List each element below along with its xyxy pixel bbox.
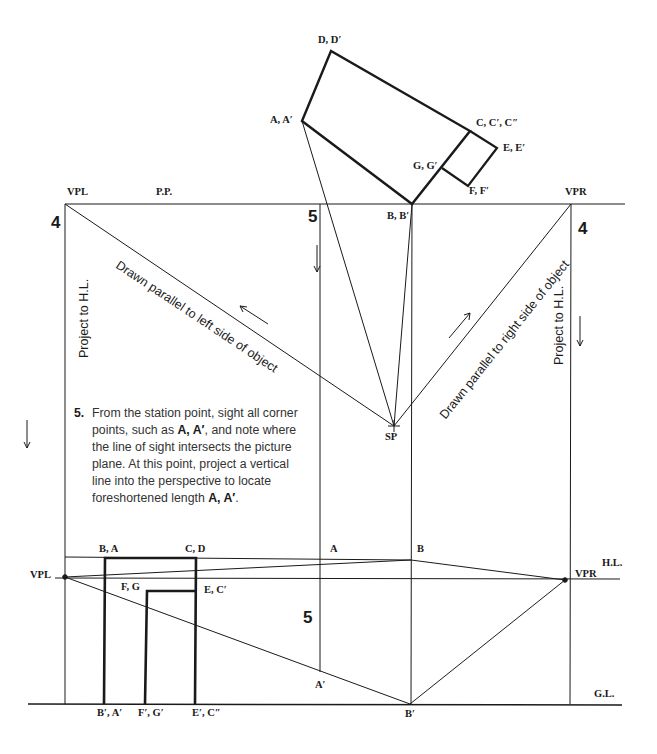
sight-line-b [394,204,412,426]
label-fg: F, G [121,581,140,592]
label-pp: P.P. [156,186,172,197]
vpr-point [563,578,568,583]
arrow-upleft-icon [240,306,268,324]
arrow-mid-down-icon [314,245,320,272]
label-vpr-top: VPR [565,186,587,197]
arrow-left-down-icon [24,420,30,448]
label-f: F, F′ [469,185,489,196]
projector-b [411,204,412,704]
label-ba-prime: B′, A′ [97,707,122,718]
label-hl: H.L. [602,557,622,568]
projector-vpr [570,204,571,704]
step-5-bottom: 5 [303,608,312,628]
horizon-line [55,578,620,579]
right-project-text: Project to H.L. [552,286,566,365]
label-ba: B, A [99,543,118,554]
step-4-right: 4 [578,219,587,239]
label-sp: SP [385,431,397,442]
label-b-top: B [417,543,424,554]
label-vpr-bottom: VPR [575,568,597,579]
label-cd: C, D [185,543,205,554]
label-e: E, E′ [503,142,525,153]
ground-line [28,704,622,705]
right-parallel-line [394,204,571,426]
b-to-vpr-line [411,560,565,580]
perspective-drawing [0,0,657,754]
label-a-top: A [330,543,338,554]
label-fg-prime: F′, G′ [138,707,164,718]
bprime-to-vpr-line [410,580,565,704]
outer-shape [104,558,196,704]
note-number: 5. [74,405,84,422]
vpl-to-b-line [65,560,411,577]
step-5-top: 5 [308,207,317,227]
step-5-note: 5. From the station point, sight all cor… [92,405,302,507]
sight-line-a [302,121,394,426]
left-project-text: Project to H.L. [77,279,91,358]
arrow-right-down-icon [577,316,583,346]
label-vpl-top: VPL [67,186,88,197]
plan-object-notch [442,131,497,186]
label-b-prime: B′ [405,708,415,719]
vpl-point [63,575,68,580]
vpl-to-bprime-line [65,577,410,704]
plan-object-main [302,51,470,204]
step-4-left: 4 [51,213,60,233]
inner-shape [145,591,196,704]
label-g: G, G′ [413,160,438,171]
label-a-prime: A′ [315,679,326,690]
label-d: D, D′ [318,34,341,45]
label-a: A, A′ [270,114,293,125]
left-parallel-line [65,204,394,426]
label-vpl-bottom: VPL [30,569,51,580]
label-ec-prime: E′, C″ [192,707,221,718]
label-c: C, C′, C″ [476,117,518,128]
label-gl: G.L. [594,688,614,699]
label-ec: E, C′ [204,584,227,595]
label-b: B, B′ [387,210,409,221]
